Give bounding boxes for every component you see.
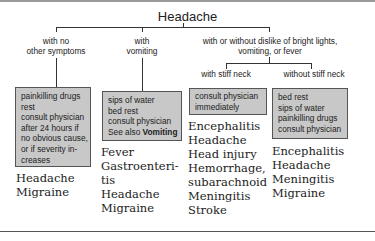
branch-label-bright-lights: with or without dislike of bright lights… bbox=[190, 36, 350, 56]
advice-box-no-symptoms: painkilling drugs rest consult physician… bbox=[15, 87, 91, 167]
connector bbox=[142, 27, 143, 32]
top-rule bbox=[0, 0, 375, 2]
branch-label-vomiting: with vomiting bbox=[112, 36, 172, 56]
connector bbox=[226, 63, 312, 64]
diagnoses-no-stiff-neck: Encephalitis Headache Meningitis Migrain… bbox=[272, 144, 344, 200]
branch-label-no-symptoms: with no other symptoms bbox=[20, 36, 92, 56]
diagnoses-vomiting: Fever Gastroenteri- tis Headache Migrain… bbox=[101, 145, 179, 215]
connector bbox=[56, 58, 57, 87]
diagram-title: Headache bbox=[0, 9, 375, 24]
see-also-line: See also Vomiting bbox=[108, 127, 176, 138]
connector bbox=[56, 27, 57, 32]
advice-box-stiff-neck: consult physician immediately bbox=[189, 88, 267, 115]
connector bbox=[56, 27, 270, 28]
see-also-vomiting-link[interactable]: Vomiting bbox=[143, 127, 178, 137]
connector bbox=[142, 58, 143, 91]
diagnoses-no-symptoms: Headache Migraine bbox=[16, 171, 75, 199]
sub-label-no-stiff-neck: without stiff neck bbox=[274, 69, 354, 79]
sub-label-stiff-neck: with stiff neck bbox=[190, 69, 262, 79]
advice-box-vomiting: sips of water bed rest consult physician… bbox=[102, 91, 182, 141]
connector bbox=[269, 27, 270, 32]
diagnoses-stiff-neck: Encephalitis Headache Head injury Hemorr… bbox=[188, 119, 267, 217]
bottom-rule bbox=[0, 231, 375, 232]
advice-box-no-stiff-neck: bed rest sips of water painkilling drugs… bbox=[272, 88, 348, 139]
